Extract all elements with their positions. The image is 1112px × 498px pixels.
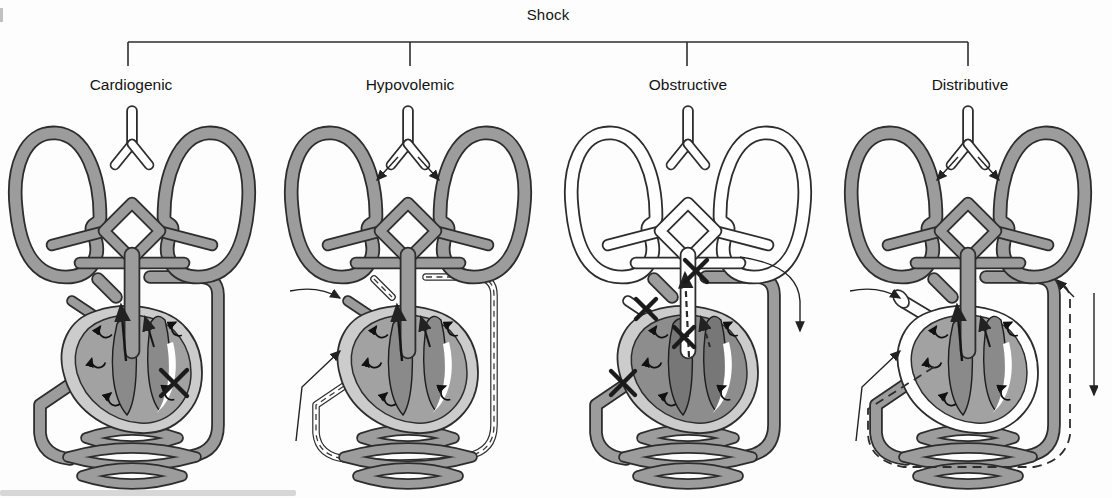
shock-classification-figure: Shock Cardiogenic Hypovolemic Obstructiv… <box>0 0 1112 498</box>
capillary-lens <box>638 468 738 484</box>
arrow-vena-cava-inflow <box>290 289 340 298</box>
scan-artifact-bottom <box>0 490 296 496</box>
right-lung <box>440 133 525 277</box>
capillary-lens <box>82 468 182 484</box>
systemic-loop-upper-left <box>934 279 952 297</box>
trachea <box>951 111 985 165</box>
capillary-bed <box>904 430 1032 484</box>
left-lung <box>851 133 936 277</box>
label-cardiogenic: Cardiogenic <box>90 76 173 94</box>
systemic-loop-upper-left <box>98 279 116 297</box>
scan-artifact-left <box>0 8 3 22</box>
systemic-loop-upper-left <box>654 279 672 297</box>
capillary-bed <box>624 430 752 484</box>
label-obstructive: Obstructive <box>649 76 727 94</box>
right-lung <box>1000 133 1085 277</box>
diagram-obstructive <box>558 105 818 495</box>
trachea <box>671 111 705 165</box>
diagram-hypovolemic <box>278 105 538 495</box>
right-lung <box>164 133 249 277</box>
capillary-bed <box>68 430 196 484</box>
label-distributive: Distributive <box>932 76 1009 94</box>
trachea <box>391 111 425 165</box>
bronchus <box>688 144 705 165</box>
bronchus <box>132 144 149 165</box>
trachea <box>115 111 149 165</box>
diagram-distributive <box>838 105 1098 495</box>
left-lung <box>15 133 100 277</box>
capillary-lens <box>918 468 1018 484</box>
systemic-loop-upper-left <box>374 279 392 297</box>
label-hypovolemic: Hypovolemic <box>366 76 455 94</box>
heart <box>338 255 478 433</box>
right-lung <box>720 133 805 277</box>
bracket-connector <box>0 0 1112 72</box>
capillary-lens <box>358 468 458 484</box>
diagram-cardiogenic <box>2 105 262 495</box>
capillary-bed <box>344 430 472 484</box>
left-lung <box>291 133 376 277</box>
left-lung <box>571 133 656 277</box>
